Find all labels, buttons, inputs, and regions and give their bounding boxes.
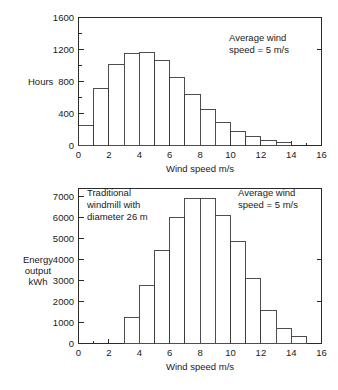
bar-bottom-5: [200, 199, 215, 344]
top-chart-y-axis-title: Hours: [28, 76, 54, 87]
bottom-xtick-6: 12: [256, 347, 267, 358]
bar-bottom-8: [246, 278, 261, 343]
bottom-xtick-5: 10: [225, 347, 236, 358]
bottom-ytick-5: 5000: [53, 233, 74, 244]
top-chart-group: 0 400 800 1200 1600 Hours 0 2 4 6 8 10 1…: [28, 12, 327, 174]
bottom-chart-y-axis-title-line1: Energy: [23, 254, 53, 265]
bottom-chart-group: 0 1000 2000 3000 4000 5000 6000 7000 Ene…: [23, 187, 327, 372]
bottom-chart-y-axis-title-line2: output: [25, 265, 52, 276]
top-xtick-7: 14: [286, 149, 297, 160]
bar-bottom-4: [185, 199, 200, 344]
bottom-xtick-2: 4: [137, 347, 142, 358]
bar-bottom-1: [139, 285, 154, 344]
bottom-ytick-7: 7000: [53, 191, 74, 202]
bottom-chart-annotation-a-line3: diameter 26 m: [87, 211, 148, 222]
bar-top-4: [139, 52, 154, 145]
bottom-ytick-3: 3000: [53, 275, 74, 286]
bottom-chart-annotation-a-line2: windmill with: [86, 199, 140, 210]
top-xtick-3: 6: [167, 149, 172, 160]
bottom-chart-annotation-b-line1: Average wind: [238, 187, 295, 198]
bar-bottom-9: [261, 310, 276, 344]
top-ytick-2: 800: [58, 76, 74, 87]
top-xtick-4: 8: [197, 149, 202, 160]
top-chart-bars: [79, 52, 292, 145]
bar-top-6: [170, 78, 185, 146]
bottom-xtick-4: 8: [197, 347, 202, 358]
top-xtick-0: 0: [76, 149, 81, 160]
top-xtick-8: 16: [316, 149, 327, 160]
top-chart-annotation-line1: Average wind: [229, 32, 286, 43]
bar-bottom-6: [215, 216, 230, 344]
bottom-ytick-6: 6000: [53, 212, 74, 223]
top-ytick-1: 400: [58, 108, 74, 119]
bar-bottom-3: [170, 218, 185, 344]
bar-bottom-10: [276, 328, 291, 343]
bar-top-0: [79, 126, 94, 146]
top-chart-annotation-line2: speed = 5 m/s: [229, 44, 289, 55]
bar-top-1: [94, 89, 109, 146]
top-chart-x-axis-title: Wind speed m/s: [166, 163, 234, 174]
bar-top-8: [200, 110, 215, 146]
bottom-xtick-0: 0: [76, 347, 81, 358]
bar-top-5: [155, 61, 170, 146]
top-xtick-5: 10: [225, 149, 236, 160]
charts-svg: 0 400 800 1200 1600 Hours 0 2 4 6 8 10 1…: [0, 0, 338, 390]
top-xtick-1: 2: [106, 149, 111, 160]
bottom-ytick-4: 4000: [53, 254, 74, 265]
bar-top-11: [246, 137, 261, 146]
bar-top-3: [124, 53, 139, 145]
bottom-chart-x-axis-title: Wind speed m/s: [166, 361, 234, 372]
bottom-chart-annotation-a-line1: Traditional: [87, 187, 131, 198]
bar-bottom-0: [124, 317, 139, 343]
bottom-chart-bars: [124, 199, 306, 344]
top-xtick-2: 4: [137, 149, 142, 160]
top-ytick-0: 0: [69, 140, 74, 151]
wind-energy-figure: 0 400 800 1200 1600 Hours 0 2 4 6 8 10 1…: [0, 0, 338, 390]
bottom-ytick-0: 0: [69, 338, 74, 349]
bottom-ytick-2: 2000: [53, 296, 74, 307]
top-xtick-6: 12: [256, 149, 267, 160]
bar-top-7: [185, 95, 200, 146]
top-ytick-3: 1200: [53, 44, 74, 55]
bottom-chart-annotation-b-line2: speed = 5 m/s: [238, 199, 298, 210]
bar-top-10: [231, 131, 246, 145]
bottom-xtick-7: 14: [286, 347, 297, 358]
bottom-chart-y-axis-title-line3: kWh: [29, 276, 48, 287]
bar-top-12: [261, 141, 276, 146]
bar-bottom-2: [155, 251, 170, 344]
bar-top-9: [215, 123, 230, 146]
bottom-ytick-1: 1000: [53, 317, 74, 328]
top-ytick-4: 1600: [53, 12, 74, 23]
bottom-xtick-8: 16: [316, 347, 327, 358]
bottom-xtick-3: 6: [167, 347, 172, 358]
bar-bottom-7: [231, 242, 246, 344]
bar-top-13: [276, 143, 291, 146]
bar-top-2: [109, 64, 124, 145]
bottom-xtick-1: 2: [106, 347, 111, 358]
bar-bottom-11: [291, 337, 306, 344]
